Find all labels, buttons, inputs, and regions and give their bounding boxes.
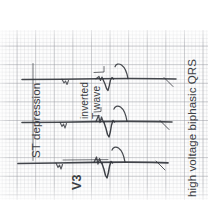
ecg-figure: ST depression inverted T wave V3 high vo… xyxy=(0,0,208,222)
annotation-inverted-t-wave-line2: T wave xyxy=(91,86,102,119)
pointer-line-t-wave-1 xyxy=(94,67,104,73)
ecg-baseline-beat-3 xyxy=(18,162,168,163)
ecg-qrs-complex-beat-3 xyxy=(102,162,113,179)
ecg-qrs-complex-beat-2 xyxy=(104,121,115,138)
ecg-notch-beat-1 xyxy=(62,79,69,84)
annotation-lead-label-v3: V3 xyxy=(70,175,84,191)
ecg-baseline-beat-2 xyxy=(22,121,172,122)
ecg-notch-beat-3 xyxy=(56,163,63,169)
ecg-notch-beat-2 xyxy=(60,122,67,128)
ecg-t-wave-beat-3 xyxy=(112,147,125,162)
ecg-baseline-beat-1 xyxy=(22,79,176,80)
ecg-st-segment-beat-1 xyxy=(96,77,103,81)
ecg-t-wave-beat-1 xyxy=(115,64,128,79)
annotation-st-depression: ST depression xyxy=(30,83,42,158)
ecg-t-wave-beat-2 xyxy=(114,106,127,121)
annotation-high-voltage-biphasic-qrs: high voltage biphasic QRS xyxy=(186,59,198,197)
annotation-inverted-t-wave-line1: inverted xyxy=(79,82,90,119)
